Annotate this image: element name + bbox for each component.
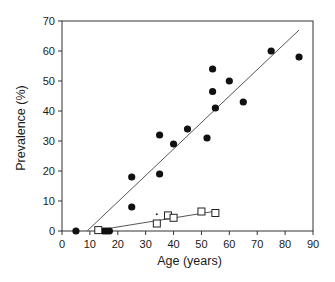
filled-circle-point <box>156 170 163 177</box>
open-square-point <box>153 220 160 227</box>
filled-circle-point <box>209 88 216 95</box>
filled-circle-point <box>128 173 135 180</box>
data-points <box>72 47 302 234</box>
x-tick-label: 60 <box>223 238 235 250</box>
open-square-point <box>212 210 219 217</box>
filled-circle-point <box>128 203 135 210</box>
y-axis: 010203040506070 <box>43 15 62 237</box>
filled-circle-point <box>268 47 275 54</box>
open-square-point <box>170 214 177 221</box>
filled-circle-point <box>203 134 210 141</box>
filled-circle-point <box>72 227 79 234</box>
filled-circle-point <box>184 125 191 132</box>
x-tick-label: 30 <box>140 238 152 250</box>
filled-circle-point <box>295 53 302 60</box>
filled-circle-point <box>212 104 219 111</box>
filled-circle-point <box>209 65 216 72</box>
filled-circle-point <box>170 140 177 147</box>
scatter-chart: 010203040506070 0102030405060708090 Age … <box>0 0 335 282</box>
x-axis-title: Age (years) <box>157 254 222 268</box>
x-tick-label: 0 <box>59 238 65 250</box>
x-tick-label: 20 <box>112 238 124 250</box>
open-square-point <box>198 208 205 215</box>
filled-circle-point <box>156 131 163 138</box>
y-tick-label: 10 <box>43 195 55 207</box>
y-axis-title: Prevalence (%) <box>14 85 28 170</box>
y-tick-label: 40 <box>43 105 55 117</box>
regression-line <box>87 30 299 231</box>
x-tick-label: 40 <box>167 238 179 250</box>
open-square-point <box>95 227 102 234</box>
fit-lines <box>87 30 299 231</box>
filled-circle-point <box>226 77 233 84</box>
x-tick-label: 80 <box>279 238 291 250</box>
x-tick-label: 50 <box>195 238 207 250</box>
y-tick-label: 20 <box>43 165 55 177</box>
y-tick-label: 0 <box>49 225 55 237</box>
annotation-dot <box>156 213 158 215</box>
y-tick-label: 30 <box>43 135 55 147</box>
x-tick-label: 70 <box>251 238 263 250</box>
x-tick-label: 90 <box>307 238 319 250</box>
filled-circle-point <box>106 227 113 234</box>
y-tick-label: 60 <box>43 45 55 57</box>
y-tick-label: 70 <box>43 15 55 27</box>
filled-circle-point <box>240 98 247 105</box>
x-tick-label: 10 <box>84 238 96 250</box>
y-tick-label: 50 <box>43 75 55 87</box>
